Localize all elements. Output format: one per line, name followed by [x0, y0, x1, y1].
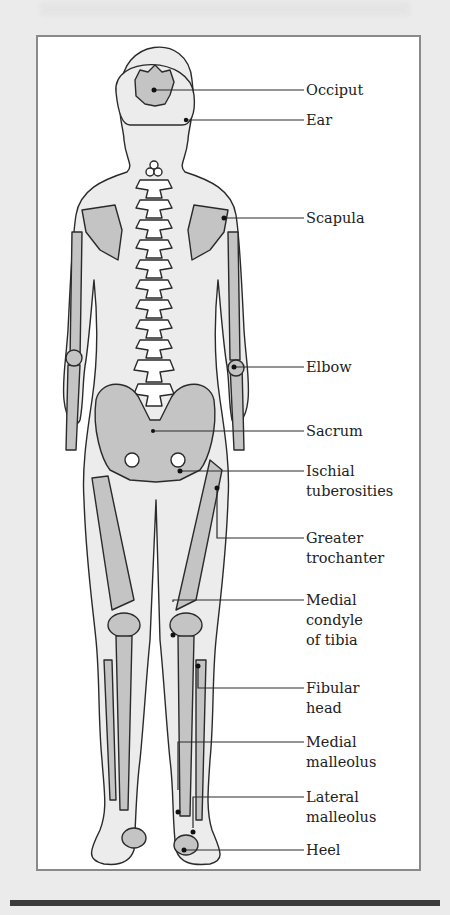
label-elbow: Elbow — [306, 357, 352, 377]
left-humerus — [70, 232, 82, 360]
label-lateral-malleolus: Lateral malleolus — [306, 787, 376, 827]
label-ischial-tuberosities: Ischial tuberosities — [306, 461, 393, 501]
label-scapula: Scapula — [306, 208, 365, 228]
label-greater-trochanter: Greater trochanter — [306, 528, 384, 568]
right-humerus — [228, 232, 240, 360]
label-medial-condyle-of-tibia: Medial condyle of tibia — [306, 590, 363, 650]
label-medial-malleolus: Medial malleolus — [306, 732, 376, 772]
skeleton-diagram — [0, 0, 450, 915]
label-heel: Heel — [306, 840, 340, 860]
right-forearm — [230, 365, 244, 450]
left-forearm — [66, 365, 80, 450]
label-fibular-head: Fibular head — [306, 678, 360, 718]
label-ear: Ear — [306, 110, 332, 130]
label-sacrum: Sacrum — [306, 421, 363, 441]
label-occiput: Occiput — [306, 80, 363, 100]
bottom-rule — [10, 900, 440, 906]
